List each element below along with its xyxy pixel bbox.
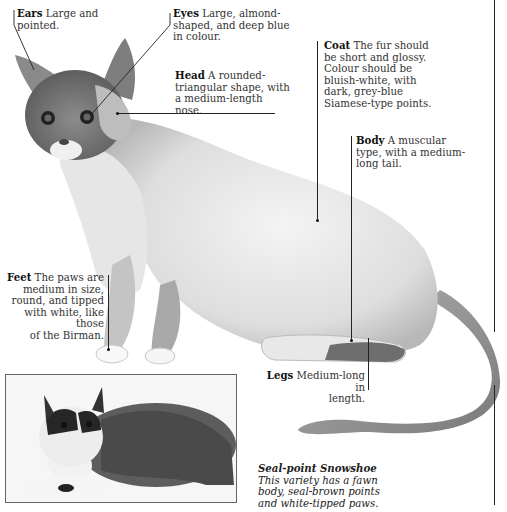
photo-caption: Seal-point Snowshoe This variety has a f…: [258, 463, 380, 509]
legs-title: Legs: [267, 369, 294, 381]
legs-label: Legs Medium-long in length.: [255, 370, 365, 405]
page-margin-rule-lower: [494, 385, 495, 505]
head-leader-dot: [116, 112, 119, 115]
feet-leader-dot: [107, 348, 110, 351]
body-label: Body A muscular type, with a medium- lon…: [356, 135, 465, 170]
page-margin-rule-upper: [494, 0, 495, 332]
legs-leader-line: [368, 338, 369, 390]
coat-title: Coat: [324, 39, 350, 51]
feet-label: Feet The paws are medium in size, round,…: [0, 272, 104, 342]
feet-title: Feet: [7, 271, 31, 283]
coat-leader-line: [317, 41, 318, 221]
body-leader-dot: [350, 339, 353, 342]
feet-leader-line: [108, 275, 109, 349]
snowshoe-photo-image: [6, 375, 236, 502]
eyes-title: Eyes: [173, 7, 199, 19]
ears-label: Ears Large and pointed.: [17, 8, 98, 31]
body-leader-line: [351, 136, 352, 341]
coat-leader-dot: [316, 219, 319, 222]
ears-title: Ears: [17, 7, 42, 19]
head-label: Head A rounded- triangular shape, with a…: [175, 70, 290, 116]
seal-point-snowshoe-photo: [5, 374, 237, 503]
coat-label: Coat The fur should be short and glossy.…: [324, 40, 431, 110]
eyes-label: Eyes Large, almond- shaped, and deep blu…: [173, 8, 290, 43]
body-title: Body: [356, 134, 384, 146]
caption-title: Seal-point Snowshoe: [258, 462, 377, 474]
head-title: Head: [175, 69, 205, 81]
